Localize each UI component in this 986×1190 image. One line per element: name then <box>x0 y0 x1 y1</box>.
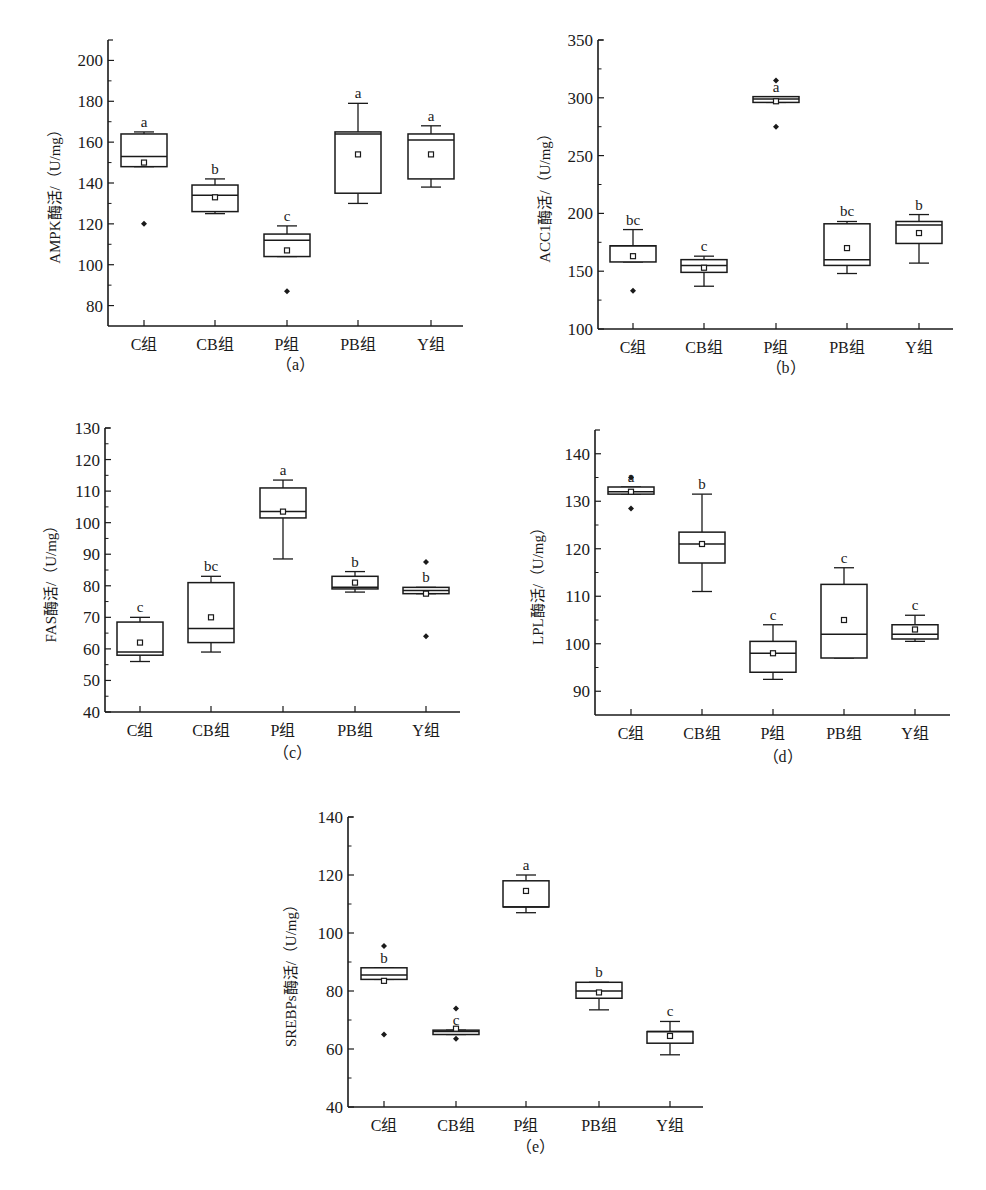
y-tick-label: 100 <box>78 256 104 275</box>
significance-letter: b <box>915 197 923 213</box>
x-tick-label: C组 <box>620 339 647 356</box>
axes: 405060708090100110120130C组CB组P组PB组Y组 <box>75 419 461 739</box>
box-C组: b <box>361 943 407 1037</box>
outlier-marker <box>423 559 429 565</box>
y-tick-label: 120 <box>318 866 344 885</box>
mean-marker <box>597 990 602 995</box>
mean-marker <box>142 160 147 165</box>
y-tick-label: 40 <box>83 703 100 722</box>
significance-letter: b <box>380 950 388 966</box>
significance-letter: c <box>284 208 291 224</box>
significance-letter: a <box>280 462 287 478</box>
mean-marker <box>281 509 286 514</box>
significance-letter: a <box>141 114 148 130</box>
y-tick-label: 110 <box>75 482 100 501</box>
box-Y组: c <box>892 597 938 641</box>
mean-marker <box>917 231 922 236</box>
significance-letter: b <box>698 476 706 492</box>
x-tick-label: CB组 <box>192 722 229 739</box>
significance-letter: c <box>667 1003 674 1019</box>
mean-marker <box>356 152 361 157</box>
box-CB组: b <box>679 476 725 591</box>
y-tick-label: 140 <box>78 174 104 193</box>
panel-caption: （e） <box>516 1138 555 1155</box>
axes: 90100110120130140C组CB组P组PB组Y组 <box>565 430 951 742</box>
iqr-box <box>335 132 381 193</box>
y-tick-label: 140 <box>565 445 591 464</box>
box-plot-fas: 405060708090100110120130C组CB组P组PB组Y组FAS酶… <box>0 415 480 775</box>
mean-marker <box>631 254 636 259</box>
y-tick-label: 100 <box>318 924 344 943</box>
box-P组: a <box>260 462 306 559</box>
y-tick-label: 250 <box>568 147 594 166</box>
x-tick-label: C组 <box>371 1117 398 1134</box>
box-plot-ampk: 80100120140160180200C组CB组P组PB组Y组AMPK酶活/（… <box>0 30 480 390</box>
significance-letter: bc <box>204 558 219 574</box>
box-Y组: c <box>647 1003 693 1054</box>
outlier-marker <box>381 943 387 949</box>
significance-letter: c <box>701 238 708 254</box>
significance-letter: c <box>912 597 919 613</box>
mean-marker <box>700 542 705 547</box>
box-Y组: a <box>408 108 454 187</box>
x-tick-label: Y组 <box>656 1117 684 1134</box>
panel-caption: （c） <box>273 744 312 761</box>
mean-marker <box>213 195 218 200</box>
x-tick-label: Y组 <box>412 722 440 739</box>
y-tick-label: 140 <box>318 808 344 827</box>
y-tick-label: 100 <box>75 514 101 533</box>
box-Y组: b <box>403 559 449 639</box>
y-axis-title: AMPK酶活/（U/mg） <box>47 122 63 264</box>
x-tick-label: P组 <box>761 725 786 742</box>
outlier-marker <box>284 288 290 294</box>
y-tick-label: 80 <box>86 297 103 316</box>
x-tick-label: C组 <box>127 722 154 739</box>
x-tick-label: CB组 <box>437 1117 474 1134</box>
x-tick-label: CB组 <box>683 725 720 742</box>
y-tick-label: 120 <box>565 540 591 559</box>
mean-marker <box>429 152 434 157</box>
y-tick-label: 70 <box>83 608 100 627</box>
y-tick-label: 350 <box>568 31 594 50</box>
y-tick-label: 120 <box>78 215 104 234</box>
x-tick-label: Y组 <box>901 725 929 742</box>
box-C组: bc <box>610 212 656 294</box>
x-tick-label: C组 <box>131 336 158 353</box>
box-PB组: b <box>576 964 622 1010</box>
y-tick-label: 40 <box>326 1098 343 1117</box>
mean-marker <box>774 99 779 104</box>
chart-panel-e: 406080100120140C组CB组P组PB组Y组SREBPs酶活/（U/m… <box>270 800 730 1180</box>
x-tick-label: CB组 <box>196 336 233 353</box>
mean-marker <box>913 627 918 632</box>
outlier-marker <box>630 288 636 294</box>
outlier-marker <box>141 221 147 227</box>
significance-letter: a <box>523 857 530 873</box>
x-tick-label: PB组 <box>337 722 373 739</box>
iqr-box <box>117 622 163 655</box>
y-tick-label: 160 <box>78 133 104 152</box>
box-plot-lpl: 90100110120130140C组CB组P组PB组Y组LPL酶活/（U/mg… <box>490 415 970 775</box>
chart-panel-d: 90100110120130140C组CB组P组PB组Y组LPL酶活/（U/mg… <box>490 415 970 775</box>
outlier-marker <box>773 124 779 130</box>
axes: 100150200250300350C组CB组P组PB组Y组 <box>568 31 954 356</box>
axes: 80100120140160180200C组CB组P组PB组Y组 <box>78 40 464 353</box>
y-tick-label: 50 <box>83 671 100 690</box>
box-CB组: c <box>681 238 727 286</box>
x-tick-label: PB组 <box>826 725 862 742</box>
significance-letter: c <box>770 607 777 623</box>
box-PB组: a <box>335 85 381 203</box>
iqr-box <box>679 532 725 563</box>
x-tick-label: Y组 <box>905 339 933 356</box>
mean-marker <box>629 489 634 494</box>
y-tick-label: 180 <box>78 92 104 111</box>
mean-marker <box>285 248 290 253</box>
x-tick-label: C组 <box>618 725 645 742</box>
significance-letter: c <box>453 1012 460 1028</box>
box-PB组: b <box>332 554 378 593</box>
mean-marker <box>138 640 143 645</box>
y-tick-label: 200 <box>78 51 104 70</box>
mean-marker <box>382 978 387 983</box>
outlier-marker <box>628 505 634 511</box>
box-PB组: c <box>821 550 867 658</box>
significance-letter: a <box>428 108 435 124</box>
